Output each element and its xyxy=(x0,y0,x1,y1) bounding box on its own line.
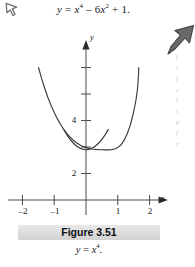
x-tick-label-minus-1: –1 xyxy=(45,206,65,216)
margin-text-line: f xyxy=(176,95,195,106)
margin-text-line: r xyxy=(176,139,195,150)
top-equation-relation: = xyxy=(65,3,71,15)
margin-text-line: f xyxy=(176,74,195,85)
x-axis-label: x xyxy=(161,193,165,203)
y-axis-label: y xyxy=(90,32,94,42)
curve-y-equals-x-to-the-fourth xyxy=(39,68,139,150)
cursor-arrow-icon xyxy=(3,2,21,20)
margin-text-line: i xyxy=(176,106,195,117)
x-tick-label-1: 1 xyxy=(110,206,126,216)
margin-text-line: i xyxy=(176,63,195,74)
y-tick-label-4: 4 xyxy=(68,115,80,125)
margin-text-line: f xyxy=(176,52,195,63)
margin-text-column: f i f c f i p f r xyxy=(176,52,195,267)
caption-equation-lhs: y xyxy=(76,244,81,255)
caption-equation-period: . xyxy=(100,244,103,255)
margin-text-line: c xyxy=(176,85,195,96)
graph-plot: y x 4 2 –2 –1 1 2 xyxy=(0,30,170,215)
x-tick-label-minus-2: –2 xyxy=(13,206,33,216)
top-equation-lhs: y xyxy=(57,3,62,15)
figure-caption-equation: y = x4. xyxy=(18,242,160,255)
figure-page: y = x4 – 6x2 + 1. xyxy=(0,0,195,267)
x-tick-label-2: 2 xyxy=(142,206,158,216)
top-equation-operator-2: + xyxy=(112,3,118,15)
top-equation-operator-1: – xyxy=(86,3,92,15)
top-equation-term1-exponent: 4 xyxy=(80,2,84,9)
margin-text-line: p xyxy=(176,117,195,128)
top-equation-term2-exponent: 2 xyxy=(106,2,110,9)
y-axis-arrowhead xyxy=(82,40,89,50)
margin-text-line: f xyxy=(176,128,195,139)
y-tick-label-2: 2 xyxy=(68,168,80,178)
figure-caption-title: Figure 3.51 xyxy=(18,225,160,240)
caption-equation-relation: = xyxy=(83,244,89,255)
top-equation: y = x4 – 6x2 + 1. xyxy=(57,2,130,15)
top-equation-constant: 1. xyxy=(121,3,130,15)
